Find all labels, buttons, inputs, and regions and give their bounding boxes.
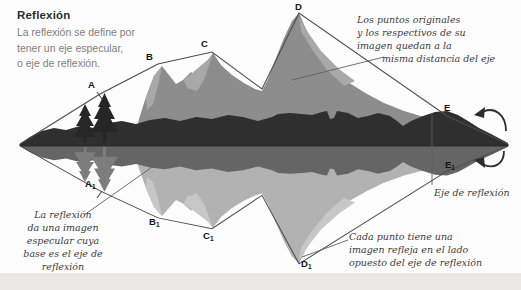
annotation-specular-image: La reflexión da una imagen especular cuy… bbox=[14, 208, 112, 273]
point-label-b: B bbox=[146, 51, 153, 63]
point-label-b1: B1 bbox=[149, 216, 160, 228]
point-label-e1: E1 bbox=[445, 159, 455, 171]
page-description: La reflexión se define por tener un eje … bbox=[17, 25, 135, 72]
axis-of-reflection-label: Eje de reflexión bbox=[434, 186, 510, 199]
flip-arrow-top-icon bbox=[474, 107, 506, 131]
point-label-d1: D1 bbox=[301, 258, 312, 270]
point-a1-tick bbox=[97, 191, 102, 198]
header-block: Reflexión La reflexión se define por ten… bbox=[17, 9, 135, 72]
footer-strip bbox=[0, 273, 521, 290]
point-label-a1: A1 bbox=[85, 178, 96, 190]
reflection-diagram-page: Reflexión La reflexión se define por ten… bbox=[0, 0, 521, 290]
point-label-a: A bbox=[88, 79, 95, 91]
point-label-c1: C1 bbox=[203, 230, 214, 242]
page-title: Reflexión bbox=[17, 9, 135, 21]
point-label-d: D bbox=[295, 1, 302, 13]
point-label-e: E bbox=[444, 102, 450, 114]
annotation-equal-distance: Los puntos originales y los respectivos … bbox=[357, 13, 495, 65]
point-label-c: C bbox=[201, 38, 208, 50]
annotation-opposite-side: Cada punto tiene una imagen refleja en e… bbox=[349, 230, 482, 269]
